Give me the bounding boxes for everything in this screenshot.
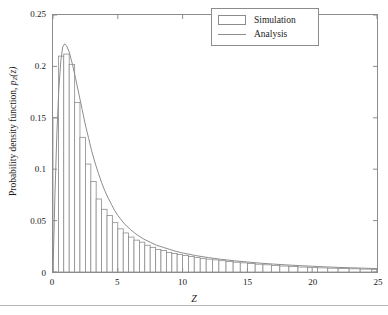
- histogram-bar: [188, 257, 194, 272]
- histogram-bar: [206, 259, 212, 272]
- histogram-bar: [280, 266, 289, 272]
- figure-canvas: 00.050.10.150.20.25 0510152025 Z Probabi…: [0, 0, 388, 315]
- histogram-bar: [360, 269, 372, 272]
- legend-patch-icon: [217, 15, 247, 26]
- histogram-bar: [289, 267, 298, 272]
- histogram-bar: [150, 247, 155, 272]
- histogram-bar: [226, 262, 233, 272]
- histogram-bar: [338, 269, 349, 272]
- histogram-bar: [156, 249, 161, 272]
- histogram-bar: [255, 264, 263, 272]
- x-tick-label: 20: [308, 277, 317, 287]
- histogram-bar: [263, 265, 271, 272]
- histogram-bar: [166, 252, 171, 272]
- histogram-bar: [161, 250, 166, 272]
- histogram-bar: [212, 260, 218, 272]
- histogram-bar: [219, 261, 226, 272]
- histogram-bar: [349, 269, 360, 272]
- histogram-bar: [75, 102, 80, 272]
- x-tick-label: 0: [50, 277, 55, 287]
- histogram-bar: [317, 268, 327, 272]
- histogram-bar: [183, 256, 189, 272]
- histogram-bar: [172, 253, 177, 272]
- histogram-bar: [85, 164, 90, 272]
- histogram-bar: [91, 182, 96, 272]
- histogram-bar: [240, 263, 247, 272]
- histogram-bar: [233, 262, 240, 272]
- footer-divider: [0, 305, 388, 306]
- histogram-bar: [134, 240, 139, 272]
- y-axis-title: Probability density function, pZ(z): [8, 16, 19, 246]
- histogram-bar: [194, 258, 200, 272]
- legend-item-analysis[interactable]: Analysis: [217, 27, 313, 41]
- histogram-bar: [96, 199, 101, 272]
- chart-legend[interactable]: Simulation Analysis: [211, 8, 319, 46]
- histogram-bar: [145, 245, 150, 272]
- plot-axes: [52, 14, 378, 273]
- histogram-bar: [123, 233, 128, 272]
- x-tick-label: 25: [374, 277, 383, 287]
- histogram-bar: [69, 64, 74, 272]
- histogram-bar: [107, 215, 112, 272]
- x-tick-label: 5: [115, 277, 120, 287]
- histogram-bar: [80, 137, 85, 272]
- x-tick-label: 10: [178, 277, 187, 287]
- histogram-bar: [139, 242, 144, 272]
- histogram-bar: [271, 265, 279, 272]
- histogram-bar: [112, 223, 117, 272]
- histogram-bar: [102, 209, 107, 272]
- x-tick-label: 15: [243, 277, 252, 287]
- plot-surface: [53, 15, 377, 272]
- histogram-bar: [298, 267, 308, 272]
- histogram-bar: [177, 255, 182, 272]
- legend-line-icon: [217, 29, 247, 40]
- legend-item-simulation[interactable]: Simulation: [217, 13, 313, 27]
- legend-label-simulation: Simulation: [254, 15, 296, 25]
- histogram-series-simulation: [53, 54, 377, 272]
- histogram-bar: [64, 54, 69, 272]
- x-axis-title: Z: [0, 293, 388, 304]
- y-tick-label: 0: [0, 268, 46, 278]
- histogram-bar: [247, 264, 255, 272]
- histogram-bar: [200, 259, 206, 272]
- histogram-bar: [328, 268, 338, 272]
- histogram-bar: [118, 229, 123, 272]
- histogram-bar: [129, 237, 134, 272]
- legend-label-analysis: Analysis: [254, 29, 287, 39]
